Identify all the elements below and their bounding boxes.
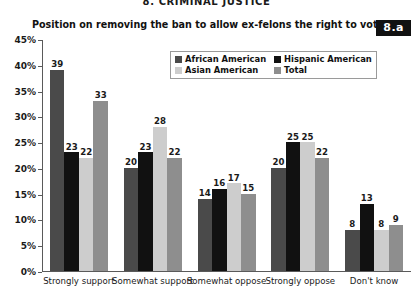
bar: 20 xyxy=(124,168,139,271)
bar-fill xyxy=(271,168,286,271)
bar-value-label: 25 xyxy=(302,133,314,142)
bar: 33 xyxy=(93,101,108,271)
bar-value-label: 22 xyxy=(80,148,92,157)
bar-value-label: 28 xyxy=(154,117,166,126)
bar-group: 81389 xyxy=(345,204,403,271)
bar: 22 xyxy=(79,158,94,271)
legend-label: Asian American xyxy=(185,65,258,75)
x-axis-category-label: Strongly support xyxy=(43,276,115,286)
y-axis-tick-label: 35% xyxy=(2,87,36,97)
chart-legend: African AmericanHispanic AmericanAsian A… xyxy=(170,51,377,79)
legend-swatch-icon xyxy=(175,67,182,74)
y-axis-tick-label: 5% xyxy=(2,241,36,251)
bar-value-label: 25 xyxy=(287,133,299,142)
bar-value-label: 9 xyxy=(393,215,399,224)
bar-fill xyxy=(227,183,242,271)
legend-item: African American xyxy=(175,54,266,64)
bar-group: 20232822 xyxy=(124,127,182,271)
bar-fill xyxy=(198,199,213,271)
legend-label: African American xyxy=(185,54,266,64)
bar-fill xyxy=(167,158,182,271)
bar-value-label: 33 xyxy=(95,91,107,100)
x-axis-category-label: Strongly oppose xyxy=(265,276,335,286)
bar-value-label: 23 xyxy=(66,143,78,152)
section-header: 8. CRIMINAL JUSTICE xyxy=(0,0,413,8)
bar-fill xyxy=(241,194,256,271)
bar-value-label: 13 xyxy=(361,194,373,203)
bar-fill xyxy=(212,189,227,271)
figure-badge: 8.a xyxy=(376,20,411,36)
y-axis-tick xyxy=(38,66,42,67)
y-axis-tick xyxy=(38,272,42,273)
bar: 22 xyxy=(167,158,182,271)
y-axis-tick-label: 45% xyxy=(2,35,36,45)
bar-value-label: 22 xyxy=(168,148,180,157)
bar-group: 39232233 xyxy=(50,70,108,271)
bar: 15 xyxy=(241,194,256,271)
x-axis-category-label: Don't know xyxy=(350,276,399,286)
bar-value-label: 17 xyxy=(228,174,240,183)
y-axis-tick-label: 10% xyxy=(2,215,36,225)
bar-fill xyxy=(64,152,79,271)
y-axis-tick-label: 25% xyxy=(2,138,36,148)
bar-value-label: 15 xyxy=(242,184,254,193)
y-axis-tick-label: 15% xyxy=(2,190,36,200)
legend-swatch-icon xyxy=(274,67,281,74)
bar-fill xyxy=(360,204,375,271)
bar: 28 xyxy=(153,127,168,271)
bar-fill xyxy=(93,101,108,271)
bar: 23 xyxy=(138,152,153,271)
bar: 20 xyxy=(271,168,286,271)
bar-fill xyxy=(315,158,330,271)
x-axis-category-label: Somewhat oppose xyxy=(187,276,266,286)
y-axis-line xyxy=(42,40,43,272)
bar-value-label: 23 xyxy=(139,143,151,152)
bar-fill xyxy=(124,168,139,271)
y-axis-tick xyxy=(38,246,42,247)
x-axis-line xyxy=(42,271,411,272)
legend-swatch-icon xyxy=(175,56,182,63)
bar-fill xyxy=(300,142,315,271)
bar-value-label: 20 xyxy=(125,158,137,167)
bar-value-label: 14 xyxy=(199,189,211,198)
legend-swatch-icon xyxy=(274,56,281,63)
y-axis-tick xyxy=(38,220,42,221)
bar: 13 xyxy=(360,204,375,271)
y-axis-tick xyxy=(38,92,42,93)
chart-title: Position on removing the ban to allow ex… xyxy=(32,19,382,30)
x-axis-category-label: Somewhat support xyxy=(112,276,193,286)
y-axis-tick xyxy=(38,195,42,196)
bar-value-label: 20 xyxy=(273,158,285,167)
bar-fill xyxy=(79,158,94,271)
bar: 14 xyxy=(198,199,213,271)
bar: 25 xyxy=(286,142,301,271)
bar: 17 xyxy=(227,183,242,271)
bar-fill xyxy=(138,152,153,271)
bar: 9 xyxy=(389,225,404,271)
y-axis-tick-label: 0% xyxy=(2,267,36,277)
bar: 25 xyxy=(300,142,315,271)
bar: 22 xyxy=(315,158,330,271)
y-axis-tick-label: 40% xyxy=(2,61,36,71)
bar-group: 14161715 xyxy=(198,183,256,271)
bar-fill xyxy=(286,142,301,271)
legend-item: Asian American xyxy=(175,65,266,75)
bar: 23 xyxy=(64,152,79,271)
bar-value-label: 39 xyxy=(51,60,63,69)
bar-fill xyxy=(153,127,168,271)
bar: 16 xyxy=(212,189,227,271)
legend-item: Total xyxy=(274,65,372,75)
y-axis-tick xyxy=(38,40,42,41)
bar: 8 xyxy=(345,230,360,271)
bar-group: 20252522 xyxy=(271,142,329,271)
bar-fill xyxy=(345,230,360,271)
bar-fill xyxy=(389,225,404,271)
y-axis-tick-label: 30% xyxy=(2,112,36,122)
legend-item: Hispanic American xyxy=(274,54,372,64)
y-axis-tick-label: 20% xyxy=(2,164,36,174)
bar-value-label: 22 xyxy=(316,148,328,157)
legend-label: Hispanic American xyxy=(284,54,372,64)
bar: 39 xyxy=(50,70,65,271)
bar-value-label: 8 xyxy=(349,220,355,229)
bar-fill xyxy=(50,70,65,271)
